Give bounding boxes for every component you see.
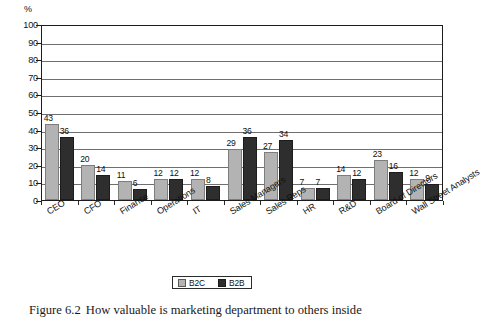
y-axis-tick-label: 50 xyxy=(8,108,38,118)
bar-value-label: 36 xyxy=(60,126,69,136)
bar-group: 2014 xyxy=(81,26,110,200)
y-axis-tick-label: 10 xyxy=(8,178,38,188)
x-axis-tick-mark xyxy=(406,201,407,205)
bar-b2c xyxy=(118,181,132,200)
bar-value-label: 12 xyxy=(153,168,162,178)
legend-item-b2b: B2B xyxy=(218,278,245,288)
legend-label-b2b: B2B xyxy=(229,278,245,288)
figure-caption: Figure 6.2How valuable is marketing depa… xyxy=(29,303,362,318)
y-axis-tick-label: 80 xyxy=(8,55,38,65)
x-axis-tick-mark xyxy=(187,201,188,205)
y-axis-tick-label: 60 xyxy=(8,90,38,100)
bar-value-label: 20 xyxy=(80,154,89,164)
y-axis-unit-label: % xyxy=(24,4,32,14)
bar-b2b xyxy=(60,137,74,200)
y-axis-tick-label: 30 xyxy=(8,143,38,153)
bar-group: 1412 xyxy=(337,26,366,200)
bar-group: 2316 xyxy=(374,26,403,200)
figure-caption-text: How valuable is marketing department to … xyxy=(86,303,362,317)
bar-group: 128 xyxy=(191,26,220,200)
bar-group: 1212 xyxy=(154,26,183,200)
y-axis-tick-label: 90 xyxy=(8,38,38,48)
x-axis-tick-mark xyxy=(333,201,334,205)
bar-value-label: 6 xyxy=(133,178,137,188)
figure-caption-number: Figure 6.2 xyxy=(29,303,81,317)
bar-value-label: 14 xyxy=(336,164,345,174)
bar-group: 4336 xyxy=(45,26,74,200)
bar-value-label: 36 xyxy=(243,126,252,136)
x-axis-tick-mark xyxy=(443,201,444,205)
y-axis-tick-label: 0 xyxy=(8,196,38,206)
x-axis-tick-mark xyxy=(224,201,225,205)
bar-value-label: 12 xyxy=(169,168,178,178)
x-axis-tick-mark xyxy=(114,201,115,205)
bar-value-label: 12 xyxy=(409,168,418,178)
bar-value-label: 11 xyxy=(117,170,125,180)
bar-group: 116 xyxy=(118,26,147,200)
legend-label-b2c: B2C xyxy=(189,278,205,288)
bar-value-label: 8 xyxy=(206,175,210,185)
y-axis-tick-label: 20 xyxy=(8,161,38,171)
bar-value-label: 16 xyxy=(389,161,398,171)
bar-b2c xyxy=(81,165,95,200)
bar-value-label: 43 xyxy=(44,113,53,123)
bar-b2c xyxy=(154,179,168,200)
bar-b2c xyxy=(45,124,59,200)
bar-value-label: 14 xyxy=(96,164,105,174)
x-axis-tick-mark xyxy=(370,201,371,205)
bar-b2b xyxy=(316,188,330,200)
bar-value-label: 7 xyxy=(316,177,320,187)
bar-value-label: 27 xyxy=(263,141,272,151)
y-axis-tick-label: 70 xyxy=(8,73,38,83)
bar-value-label: 12 xyxy=(190,168,199,178)
x-axis-tick-mark xyxy=(78,201,79,205)
legend-swatch-b2b xyxy=(218,279,226,287)
bar-b2b xyxy=(352,179,366,200)
bar-value-label: 12 xyxy=(352,168,361,178)
legend-item-b2c: B2C xyxy=(178,278,205,288)
x-axis-tick-mark xyxy=(151,201,152,205)
y-axis-tick-label: 100 xyxy=(8,20,38,30)
chart-legend: B2CB2B xyxy=(172,276,252,289)
bar-value-label: 34 xyxy=(279,129,288,139)
x-axis-category-label: IT xyxy=(191,204,203,217)
bar-group: 77 xyxy=(301,26,330,200)
legend-swatch-b2c xyxy=(178,279,186,287)
y-axis-tick-label: 40 xyxy=(8,126,38,136)
x-axis-tick-mark xyxy=(297,201,298,205)
bar-group: 2936 xyxy=(228,26,257,200)
bar-group: 2734 xyxy=(264,26,293,200)
x-axis-category-label: HR xyxy=(301,201,317,216)
chart-plot-area: 433620141161212128293627347714122316129 xyxy=(41,25,443,201)
bar-b2b xyxy=(206,186,220,200)
bar-b2c xyxy=(337,175,351,200)
x-axis-tick-mark xyxy=(260,201,261,205)
bar-b2c xyxy=(374,160,388,200)
bar-b2b xyxy=(96,175,110,200)
bar-value-label: 29 xyxy=(227,138,236,148)
x-axis-tick-mark xyxy=(41,201,42,205)
bar-value-label: 23 xyxy=(373,149,382,159)
bar-b2c xyxy=(228,149,242,200)
